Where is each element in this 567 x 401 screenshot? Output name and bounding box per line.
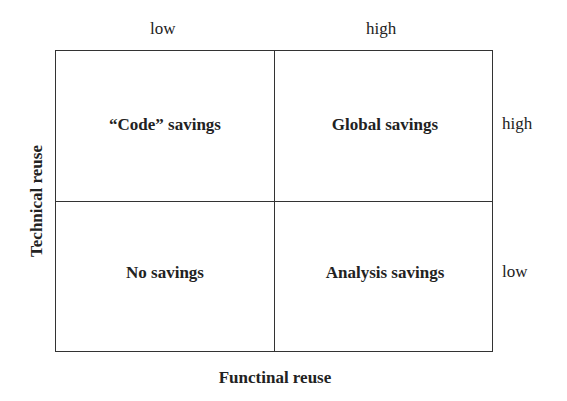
quadrant-bottom-right: Analysis savings bbox=[326, 263, 445, 283]
quadrant-top-left: “Code” savings bbox=[109, 115, 221, 135]
y-tick-low: low bbox=[502, 262, 528, 282]
x-tick-high: high bbox=[366, 19, 396, 39]
y-axis-label: Technical reuse bbox=[27, 145, 47, 257]
horizontal-divider bbox=[56, 201, 492, 202]
quadrant-top-right: Global savings bbox=[332, 115, 438, 135]
y-tick-high: high bbox=[502, 114, 532, 134]
x-axis-label: Functinal reuse bbox=[219, 368, 332, 388]
x-tick-low: low bbox=[150, 19, 176, 39]
quadrant-grid bbox=[55, 50, 493, 352]
quadrant-bottom-left: No savings bbox=[126, 263, 204, 283]
